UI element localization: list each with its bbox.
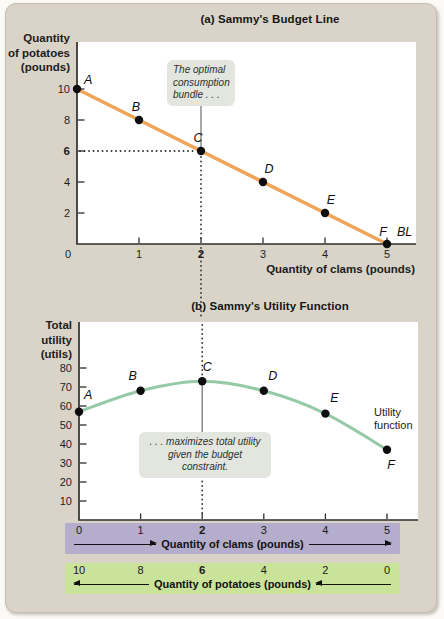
clams-band-ticks: 012345 bbox=[65, 524, 400, 537]
data-point-a bbox=[75, 408, 83, 416]
left-arrow-icon bbox=[74, 584, 149, 585]
data-point-e bbox=[321, 209, 329, 217]
panel-b-title: (b) Sammy's Utility Function bbox=[100, 300, 440, 312]
point-label: E bbox=[327, 193, 336, 207]
band-tick-label: 5 bbox=[384, 524, 390, 536]
panel-b-y-axis-label: Total utility (utils) bbox=[6, 318, 72, 362]
potatoes-axis-band: 1086420 Quantity of potatoes (pounds) bbox=[65, 563, 400, 594]
y-tick-label: 10 bbox=[58, 83, 70, 95]
point-label: D bbox=[268, 369, 277, 383]
panel-a-y-axis-label: Quantity of potatoes (pounds) bbox=[4, 31, 70, 75]
band-tick-label: 0 bbox=[384, 564, 390, 576]
y-tick-label: 6 bbox=[64, 145, 70, 157]
potatoes-band-label-row: Quantity of potatoes (pounds) bbox=[74, 578, 391, 590]
y-tick-label: 50 bbox=[60, 419, 72, 431]
data-point-f bbox=[383, 446, 391, 454]
band-tick-label: 3 bbox=[261, 524, 267, 536]
y-tick-label: 4 bbox=[64, 176, 70, 188]
optimal-bundle-callout: The optimal consumption bundle . . . bbox=[167, 60, 235, 106]
clams-band-label: Quantity of clams (pounds) bbox=[161, 538, 303, 550]
y-tick-label: 60 bbox=[60, 400, 72, 412]
right-arrow-icon bbox=[309, 544, 391, 545]
data-point-e bbox=[321, 409, 329, 417]
point-label: E bbox=[330, 391, 339, 405]
y-tick-label: 70 bbox=[60, 381, 72, 393]
x-tick-label: 0 bbox=[65, 248, 71, 260]
y-tick-label: 80 bbox=[60, 362, 72, 374]
x-tick-label: 3 bbox=[260, 248, 266, 260]
textbook-figure: 0123452468101020304050607080ABCDEFBLABCD… bbox=[0, 0, 444, 619]
panel-a-plot-area bbox=[77, 42, 416, 244]
clams-band-label-row: Quantity of clams (pounds) bbox=[74, 538, 391, 550]
point-label: C bbox=[203, 360, 213, 374]
right-arrow-icon bbox=[74, 544, 156, 545]
max-utility-callout: . . . maximizes total utility given the … bbox=[139, 432, 271, 478]
band-tick-label: 8 bbox=[138, 564, 144, 576]
x-tick-label: 5 bbox=[384, 248, 390, 260]
x-tick-label: 2 bbox=[198, 248, 204, 260]
budget-line-label: BL bbox=[397, 225, 412, 239]
point-label: B bbox=[128, 369, 136, 383]
band-tick-label: 4 bbox=[322, 524, 328, 536]
band-tick-label: 0 bbox=[76, 524, 82, 536]
utility-function-curve-label: Utility function bbox=[374, 406, 432, 432]
point-label: A bbox=[83, 73, 92, 87]
panel-a-title: (a) Sammy's Budget Line bbox=[100, 13, 440, 25]
data-point-c bbox=[197, 147, 205, 155]
potatoes-band-ticks: 1086420 bbox=[65, 564, 400, 577]
y-tick-label: 30 bbox=[60, 457, 72, 469]
x-tick-label: 1 bbox=[136, 248, 142, 260]
band-tick-label: 4 bbox=[261, 564, 267, 576]
point-label: A bbox=[83, 388, 92, 402]
band-tick-label: 1 bbox=[138, 524, 144, 536]
data-point-b bbox=[136, 387, 144, 395]
y-tick-label: 8 bbox=[64, 114, 70, 126]
point-label: C bbox=[193, 131, 203, 145]
point-label: B bbox=[132, 100, 140, 114]
data-point-d bbox=[260, 387, 268, 395]
y-tick-label: 10 bbox=[60, 495, 72, 507]
data-point-a bbox=[73, 85, 81, 93]
y-tick-label: 20 bbox=[60, 476, 72, 488]
data-point-f bbox=[383, 240, 391, 248]
panel-a-x-axis-label: Quantity of clams (pounds) bbox=[200, 262, 415, 277]
left-arrow-icon bbox=[316, 584, 391, 585]
panel-b-plot-area bbox=[79, 322, 418, 520]
band-tick-label: 2 bbox=[199, 524, 205, 536]
data-point-d bbox=[259, 178, 267, 186]
x-tick-label: 4 bbox=[322, 248, 328, 260]
point-label: D bbox=[264, 162, 273, 176]
data-point-c bbox=[198, 377, 206, 385]
y-tick-label: 40 bbox=[60, 438, 72, 450]
clams-axis-band: 012345 Quantity of clams (pounds) bbox=[65, 523, 400, 554]
y-tick-label: 2 bbox=[64, 207, 70, 219]
band-tick-label: 10 bbox=[73, 564, 85, 576]
data-point-b bbox=[135, 116, 143, 124]
band-tick-label: 2 bbox=[322, 564, 328, 576]
potatoes-band-label: Quantity of potatoes (pounds) bbox=[154, 578, 311, 590]
band-tick-label: 6 bbox=[199, 564, 205, 576]
